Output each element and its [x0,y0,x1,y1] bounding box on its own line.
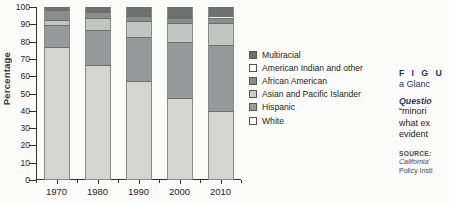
y-axis-tick-label: 10 [10,158,30,168]
x-axis-tick-label: 2000 [169,186,190,197]
bar-segment-white [85,65,111,180]
y-axis-tick [29,42,37,43]
plot-area [36,7,241,180]
y-axis-tick-label: 0 [10,175,30,185]
bar-1970 [44,7,70,180]
bar-segment-african-american [85,12,111,18]
bar-segment-multiracial [44,7,70,10]
figure-title: a Glanc [399,79,449,89]
bar-segment-white [208,111,234,180]
bar-segment-hispanic [167,42,193,98]
legend-swatch-icon [249,117,257,125]
y-axis-tick-label: 70 [10,54,30,64]
legend-swatch-icon [249,64,257,72]
y-axis-tick-label: 100 [10,2,30,12]
y-axis-tick [29,59,37,60]
y-axis-tick [29,111,37,112]
y-axis-tick [29,163,37,164]
y-axis-tick [29,94,37,95]
bar-segment-american-indian-and-other [126,15,152,16]
bar-segment-asian-and-pacific-islander [44,20,70,25]
bar-segment-african-american [44,10,70,20]
source-body: California'Policy Insti [399,157,449,175]
legend-item-label: American Indian and other [262,63,363,73]
bar-1990 [126,7,152,180]
figure-label: F I G U [399,68,449,78]
stacked-bar-chart: Percentage 01020304050607080901001970198… [0,0,244,202]
x-axis-tick [180,180,181,184]
legend-item-hispanic[interactable]: Hispanic [249,101,374,114]
bar-segment-multiracial [167,7,193,17]
bar-2000 [167,7,193,180]
bar-segment-asian-and-pacific-islander [126,21,152,37]
source-label: SOURCE: [399,150,449,157]
y-axis-tick [29,76,37,77]
y-axis-tick-label: 80 [10,37,30,47]
bar-segment-asian-and-pacific-islander [167,23,193,42]
bar-segment-asian-and-pacific-islander [208,23,234,45]
question-body: “minoriwhat exevident [399,106,449,141]
x-axis-tick-label: 1990 [128,186,149,197]
legend-item-label: Multiracial [262,50,301,60]
x-axis-minor-tick [36,180,37,183]
bar-segment-hispanic [126,37,152,81]
question-line: what ex [399,118,449,130]
legend-item-african-american[interactable]: African American [249,74,374,87]
bar-segment-multiracial [126,7,152,15]
x-axis-tick [57,180,58,184]
bar-segment-american-indian-and-other [44,9,70,10]
legend-item-label: Hispanic [262,102,295,112]
bar-segment-white [44,47,70,180]
y-axis-tick-label: 40 [10,106,30,116]
legend-swatch-icon [249,90,257,98]
bar-segment-white [167,98,193,180]
bar-segment-american-indian-and-other [85,11,111,12]
legend-item-asian-and-pacific-islander[interactable]: Asian and Pacific Islander [249,88,374,101]
legend-item-label: Asian and Pacific Islander [262,89,361,99]
bar-segment-african-american [126,16,152,21]
x-axis-minor-tick [241,180,242,183]
legend-swatch-icon [249,51,257,59]
x-axis-tick [139,180,140,184]
question-label: Questio [399,96,449,106]
legend-item-white[interactable]: White [249,114,374,127]
bar-segment-asian-and-pacific-islander [85,18,111,30]
y-axis-tick-label: 90 [10,19,30,29]
bar-segment-hispanic [44,25,70,47]
x-axis-tick-label: 2010 [210,186,231,197]
chart-legend: MultiracialAmerican Indian and otherAfri… [249,48,374,127]
bar-segment-american-indian-and-other [167,17,193,19]
x-axis-minor-tick [77,180,78,183]
bar-segment-white [126,81,152,180]
x-axis-tick [221,180,222,184]
y-axis-tick-label: 20 [10,140,30,150]
y-axis-tick-label: 60 [10,71,30,81]
plot-wrapper: 0102030405060708090100197019801990200020… [16,4,244,202]
x-axis-tick-label: 1980 [87,186,108,197]
legend-item-label: African American [262,76,327,86]
bar-segment-hispanic [85,30,111,65]
question-line: evident [399,129,449,141]
legend-swatch-icon [249,77,257,85]
bar-segment-hispanic [208,45,234,111]
question-line: “minori [399,106,449,118]
figure-caption: F I G U a Glanc Questio “minoriwhat exev… [399,68,449,175]
figure-page: Percentage 01020304050607080901001970198… [0,0,449,202]
bar-1980 [85,7,111,180]
source-line: Policy Insti [399,166,449,175]
y-axis-tick [29,145,37,146]
legend-item-multiracial[interactable]: Multiracial [249,48,374,61]
y-axis-tick-label: 30 [10,123,30,133]
bar-segment-multiracial [208,7,234,16]
source-line: California' [399,157,449,166]
bar-2010 [208,7,234,180]
bar-segment-african-american [167,18,193,22]
x-axis-tick [98,180,99,184]
bar-segment-multiracial [85,7,111,11]
x-axis-minor-tick [118,180,119,183]
legend-item-label: White [262,116,284,126]
y-axis-tick-label: 50 [10,89,30,99]
x-axis-minor-tick [200,180,201,183]
legend-item-american-indian-and-other[interactable]: American Indian and other [249,61,374,74]
y-axis-tick [29,7,37,8]
